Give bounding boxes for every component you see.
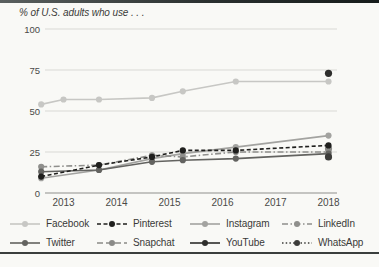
data-point-pinterest [149, 154, 155, 160]
data-point-facebook [149, 95, 155, 101]
x-tick-label: 2018 [317, 197, 340, 208]
legend-label: WhatsApp [318, 237, 363, 248]
data-point-pinterest [233, 147, 239, 153]
legend-item-youtube: YouTube [190, 237, 282, 249]
data-point-whatsapp [325, 153, 332, 160]
data-point-instagram [325, 133, 331, 139]
data-point-pinterest [325, 142, 331, 148]
legend-item-whatsapp: WhatsApp [282, 237, 379, 249]
x-tick-label: 2013 [52, 197, 75, 208]
legend-label: YouTube [226, 237, 265, 248]
x-tick-label: 2014 [105, 197, 128, 208]
data-point-twitter [233, 156, 239, 162]
legend-label: Twitter [46, 237, 75, 248]
y-tick-label: 75 [29, 65, 40, 76]
legend-label: Pinterest [133, 218, 172, 229]
data-point-facebook [180, 88, 186, 94]
line-chart: 0255075100201320142015201620172018 [0, 0, 379, 212]
legend-row: FacebookPinterestInstagramLinkedIn [10, 214, 379, 233]
legend-swatch-whatsapp [282, 237, 312, 249]
bottom-border [0, 252, 379, 254]
data-point-pinterest [38, 174, 44, 180]
legend-row: TwitterSnapchatYouTubeWhatsApp [10, 233, 379, 252]
x-tick-label: 2015 [158, 197, 181, 208]
legend-swatch-instagram [190, 218, 220, 230]
legend-item-pinterest: Pinterest [97, 218, 190, 230]
data-point-twitter [180, 157, 186, 163]
x-tick-label: 2016 [211, 197, 234, 208]
legend-label: Facebook [46, 218, 89, 229]
legend-item-linkedin: LinkedIn [282, 218, 379, 230]
data-point-facebook [233, 78, 239, 84]
legend-swatch-youtube [190, 237, 220, 249]
legend-swatch-twitter [10, 237, 40, 249]
legend-item-facebook: Facebook [10, 218, 97, 230]
legend-label: Instagram [226, 218, 270, 229]
legend-item-snapchat: Snapchat [97, 237, 190, 249]
legend-swatch-snapchat [97, 237, 127, 249]
chart-card: % of U.S. adults who use . . . 025507510… [0, 0, 379, 267]
legend-item-twitter: Twitter [10, 237, 97, 249]
legend-swatch-linkedin [282, 218, 312, 230]
legend-swatch-pinterest [97, 218, 127, 230]
chart-legend: FacebookPinterestInstagramLinkedInTwitte… [10, 214, 379, 252]
y-tick-label: 100 [24, 24, 40, 35]
legend-swatch-facebook [10, 218, 40, 230]
y-tick-label: 0 [35, 188, 40, 199]
data-point-facebook [60, 96, 66, 102]
data-point-facebook [325, 78, 331, 84]
legend-item-instagram: Instagram [190, 218, 282, 230]
data-point-facebook [96, 96, 102, 102]
y-tick-label: 50 [29, 106, 40, 117]
x-tick-label: 2017 [264, 197, 287, 208]
data-point-youtube [325, 70, 332, 77]
legend-label: LinkedIn [318, 218, 355, 229]
data-point-pinterest [180, 147, 186, 153]
legend-label: Snapchat [133, 237, 174, 248]
data-point-pinterest [96, 162, 102, 168]
y-tick-label: 25 [29, 147, 40, 158]
data-point-facebook [38, 101, 44, 107]
